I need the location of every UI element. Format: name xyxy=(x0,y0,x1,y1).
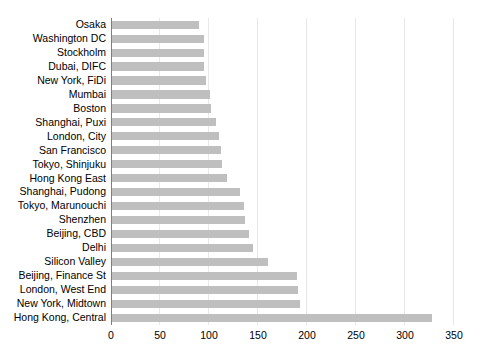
y-axis-tick-label: Mumbai xyxy=(0,88,106,102)
bar xyxy=(111,132,219,140)
y-axis-tick-label: London, West End xyxy=(0,283,106,297)
y-axis-tick-label: New York, FiDi xyxy=(0,74,106,88)
bar-row xyxy=(111,227,454,241)
bar xyxy=(111,146,221,154)
bar-chart: OsakaWashington DCStockholmDubai, DIFCNe… xyxy=(0,0,491,360)
bar xyxy=(111,188,240,196)
x-axis-tick-labels: 050100150200250300350 xyxy=(0,329,491,347)
bar-row xyxy=(111,32,454,46)
bar xyxy=(111,49,204,57)
y-axis-tick-label: Tokyo, Shinjuku xyxy=(0,158,106,172)
bar-row xyxy=(111,255,454,269)
bar xyxy=(111,272,297,280)
y-axis-tick-label: Beijing, Finance St xyxy=(0,269,106,283)
bar xyxy=(111,90,210,98)
bar-row xyxy=(111,102,454,116)
bar xyxy=(111,286,298,294)
x-axis-tick-label: 300 xyxy=(396,329,414,341)
bar-row xyxy=(111,241,454,255)
bar xyxy=(111,314,432,322)
bar-row xyxy=(111,116,454,130)
bar xyxy=(111,230,249,238)
bar xyxy=(111,300,300,308)
plot-area xyxy=(111,18,454,325)
y-axis-tick-label: Hong Kong, Central xyxy=(0,311,106,325)
bar-row xyxy=(111,213,454,227)
bar-row xyxy=(111,185,454,199)
x-axis-tick-label: 250 xyxy=(347,329,365,341)
bar-row xyxy=(111,283,454,297)
y-axis-tick-label: Dubai, DIFC xyxy=(0,60,106,74)
x-axis-tick-label: 200 xyxy=(298,329,316,341)
x-axis-tick-label: 150 xyxy=(249,329,267,341)
bar xyxy=(111,104,211,112)
y-axis-line xyxy=(111,18,112,325)
bar-row xyxy=(111,158,454,172)
x-axis-tick-label: 350 xyxy=(445,329,463,341)
bar xyxy=(111,118,216,126)
bar-row xyxy=(111,269,454,283)
bar xyxy=(111,202,244,210)
y-axis-tick-label: Silicon Valley xyxy=(0,255,106,269)
bar-row xyxy=(111,74,454,88)
bar-row xyxy=(111,46,454,60)
bar-series xyxy=(111,18,454,325)
bar xyxy=(111,62,204,70)
bar xyxy=(111,35,204,43)
y-axis-tick-label: Shenzhen xyxy=(0,213,106,227)
bar xyxy=(111,216,245,224)
bar xyxy=(111,21,199,29)
bar-row xyxy=(111,172,454,186)
y-axis-tick-label: Shanghai, Puxi xyxy=(0,116,106,130)
bar-row xyxy=(111,88,454,102)
bar-row xyxy=(111,18,454,32)
bar xyxy=(111,244,253,252)
bar-row xyxy=(111,199,454,213)
y-axis-tick-label: Shanghai, Pudong xyxy=(0,185,106,199)
y-axis-tick-label: Boston xyxy=(0,102,106,116)
y-axis-tick-labels: OsakaWashington DCStockholmDubai, DIFCNe… xyxy=(0,18,106,325)
x-axis-tick-label: 0 xyxy=(108,329,114,341)
bar-row xyxy=(111,311,454,325)
bar xyxy=(111,174,227,182)
y-axis-tick-label: London, City xyxy=(0,130,106,144)
y-axis-tick-label: Delhi xyxy=(0,241,106,255)
bar-row xyxy=(111,130,454,144)
y-axis-tick-label: Beijing, CBD xyxy=(0,227,106,241)
y-axis-tick-label: Hong Kong East xyxy=(0,172,106,186)
bar-row xyxy=(111,60,454,74)
bar xyxy=(111,76,206,84)
y-axis-tick-label: Stockholm xyxy=(0,46,106,60)
y-axis-tick-label: Washington DC xyxy=(0,32,106,46)
bar-row xyxy=(111,297,454,311)
bar xyxy=(111,160,222,168)
x-axis-tick-label: 100 xyxy=(200,329,218,341)
y-axis-tick-label: San Francisco xyxy=(0,144,106,158)
x-axis-tick-label: 50 xyxy=(154,329,166,341)
y-axis-tick-label: Tokyo, Marunouchi xyxy=(0,199,106,213)
bar-row xyxy=(111,144,454,158)
y-axis-tick-label: Osaka xyxy=(0,18,106,32)
y-axis-tick-label: New York, Midtown xyxy=(0,297,106,311)
bar xyxy=(111,258,268,266)
